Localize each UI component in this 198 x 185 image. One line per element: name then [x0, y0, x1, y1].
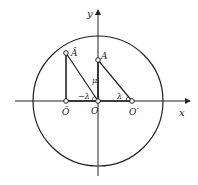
label-neg-lambda: −λ [78, 92, 90, 101]
point-Obar [64, 99, 69, 104]
coordinate-diagram: y x Ā A Ō O O′ μ −λ λ [0, 0, 198, 185]
y-axis-label: y [86, 8, 93, 19]
label-Oprime: O′ [129, 107, 138, 117]
point-O [96, 99, 101, 104]
label-mu: μ [92, 76, 97, 85]
label-O: O [91, 106, 99, 116]
point-A [96, 58, 101, 63]
segment-A-Oprime [98, 60, 132, 101]
label-lambda: λ [116, 92, 122, 101]
label-A: A [100, 51, 108, 61]
point-Oprime [130, 99, 135, 104]
point-Abar [64, 51, 69, 56]
x-axis-label: x [179, 107, 185, 118]
label-Obar: Ō [62, 106, 70, 117]
label-Abar: Ā [70, 47, 78, 58]
